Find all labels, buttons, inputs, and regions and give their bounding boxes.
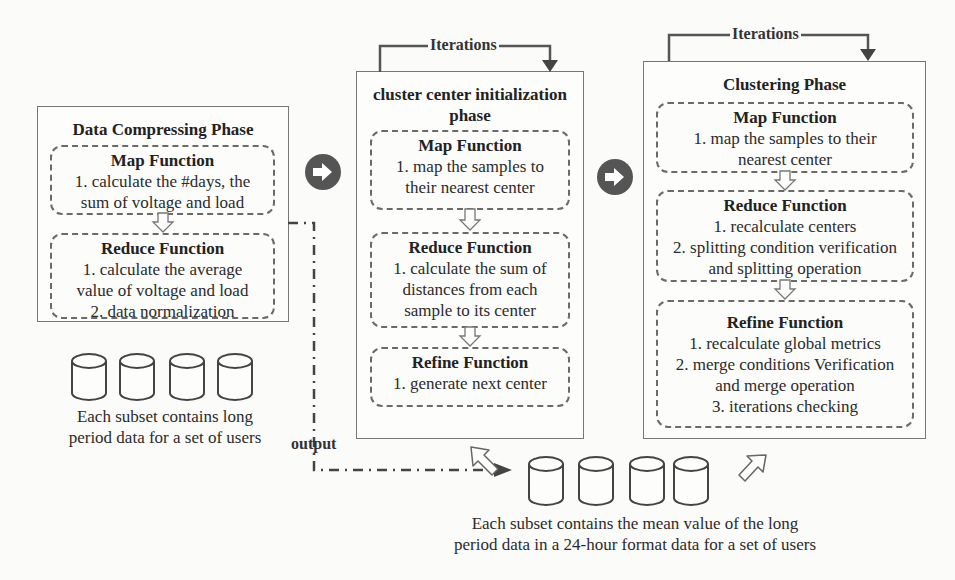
function-title: Map Function [372, 135, 568, 156]
map-function-box: Map Function 1. map the samples to their… [656, 102, 914, 173]
database-icon [674, 457, 708, 505]
function-title: Map Function [658, 107, 912, 128]
function-line: 1. calculate the #days, the [52, 171, 273, 192]
output-dataset-cylinders [527, 454, 717, 510]
database-icon [120, 354, 154, 400]
function-title: Reduce Function [658, 195, 912, 216]
database-icon [170, 354, 204, 400]
function-title: Map Function [52, 150, 273, 171]
function-title: Refine Function [658, 312, 912, 333]
database-icon [579, 457, 613, 505]
function-line: 1. calculate the average [52, 259, 273, 280]
caption-line: Each subset contains long [40, 406, 290, 427]
function-line: 1. recalculate centers [658, 216, 912, 237]
function-line: sum of voltage and load [52, 192, 273, 213]
phase-title: Data Compressing Phase [38, 119, 288, 140]
caption-line: period data in a 24-hour format data for… [425, 534, 845, 555]
function-line: value of voltage and load [52, 280, 273, 301]
iterations-label: Iterations [730, 25, 801, 43]
database-icon [218, 354, 252, 400]
phase-title: Clustering Phase [644, 74, 925, 95]
phase-title-line: cluster center initialization [357, 84, 583, 105]
down-arrow-icon [774, 170, 796, 192]
function-line: 3. iterations checking [658, 396, 912, 417]
up-right-arrow-icon [735, 452, 771, 486]
function-line: 1. recalculate global metrics [658, 333, 912, 354]
function-line: and merge operation [658, 375, 912, 396]
down-arrow-icon [152, 212, 174, 234]
map-function-box: Map Function 1. map the samples to their… [370, 130, 570, 210]
down-arrow-icon [774, 279, 796, 301]
iterations-label: Iterations [428, 36, 499, 54]
map-function-box: Map Function 1. calculate the #days, the… [50, 145, 275, 215]
reduce-function-box: Reduce Function 1. recalculate centers 2… [656, 190, 914, 282]
clustering-phase: Clustering Phase Map Function 1. map the… [643, 61, 926, 439]
output-dataset-caption: Each subset contains the mean value of t… [425, 513, 845, 555]
database-icon [72, 354, 106, 400]
database-icon [529, 457, 563, 505]
function-line: 1. map the samples to [372, 156, 568, 177]
caption-line: period data for a set of users [40, 427, 290, 448]
reduce-function-box: Reduce Function 1. calculate the average… [50, 233, 275, 319]
input-dataset-caption: Each subset contains long period data fo… [40, 406, 290, 448]
function-line: 1. map the samples to their [658, 128, 912, 149]
function-line: 2. data normalization [52, 301, 273, 322]
function-line: 2. merge conditions Verification [658, 354, 912, 375]
function-line: and splitting operation [658, 258, 912, 279]
phase-title: cluster center initialization phase [357, 84, 583, 126]
input-dataset-cylinders [70, 351, 260, 403]
function-line: 2. splitting condition verification [658, 237, 912, 258]
up-left-arrow-icon [468, 444, 504, 480]
output-label: output [291, 435, 336, 453]
refine-function-box: Refine Function 1. recalculate global me… [656, 300, 914, 428]
circle-arrow-right-icon [304, 153, 342, 191]
function-line: their nearest center [372, 177, 568, 198]
function-line: nearest center [658, 149, 912, 170]
function-title: Reduce Function [52, 238, 273, 259]
caption-line: Each subset contains the mean value of t… [425, 513, 845, 534]
circle-arrow-right-icon [596, 158, 634, 196]
phase-title-line: phase [357, 105, 583, 126]
database-icon [630, 457, 664, 505]
